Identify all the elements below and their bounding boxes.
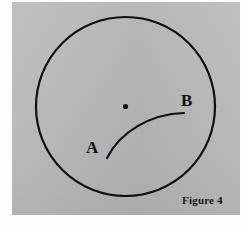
center-point-dot [123,104,128,109]
point-label-b: B [181,92,192,109]
point-label-a: A [86,139,98,156]
figure-drawing [0,0,248,227]
figure-container: A B Figure 4 [0,0,248,227]
arc-curve-a-to-b [107,113,184,158]
figure-caption: Figure 4 [182,194,223,206]
